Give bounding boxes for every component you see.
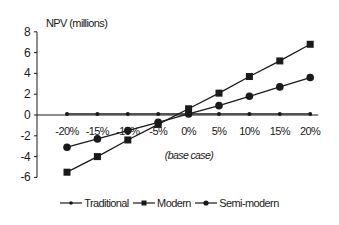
x-tick-label: -20%: [55, 125, 79, 137]
y-tick-label: 6: [24, 46, 31, 60]
x-tick-label: 0%: [181, 125, 197, 137]
x-axis: -20%-15%-10%-5%0%5%10%15%20%: [37, 115, 321, 137]
square-marker-icon: [64, 169, 71, 176]
series-semi-modern: [63, 74, 314, 151]
legend-item-modern: Modern: [133, 197, 191, 209]
y-tick-label: 0: [24, 108, 31, 122]
square-marker-icon: [307, 41, 314, 48]
diamond-marker-icon: [247, 112, 251, 116]
diamond-marker-icon: [278, 112, 282, 116]
square-marker-icon: [133, 199, 155, 207]
legend-item-semi-modern: Semi-modern: [195, 197, 278, 209]
legend-label: Traditional: [84, 197, 128, 209]
y-tick-label: 2: [24, 87, 31, 101]
diamond-marker-icon: [308, 112, 312, 116]
chart-title: NPV (millions): [46, 17, 107, 29]
circle-marker-icon: [124, 127, 132, 135]
y-tick-label: 8: [24, 25, 31, 39]
circle-marker-icon: [276, 83, 284, 91]
circle-marker-icon: [306, 74, 314, 82]
legend-item-traditional: Traditional: [60, 197, 128, 209]
diamond-marker-icon: [217, 112, 221, 116]
circle-marker-icon: [154, 118, 162, 126]
diamond-marker-icon: [126, 112, 130, 116]
y-axis: 86420-2-4-6: [21, 25, 37, 185]
diamond-marker-icon: [156, 112, 160, 116]
legend: Traditional Modern Semi-modern: [0, 197, 339, 209]
x-tick-label: 20%: [300, 125, 321, 137]
square-marker-icon: [216, 90, 223, 97]
circle-marker-icon: [195, 199, 217, 207]
legend-label: Semi-modern: [219, 197, 278, 209]
diamond-marker-icon: [65, 112, 69, 116]
circle-marker-icon: [94, 135, 102, 143]
y-tick-label: -6: [21, 170, 31, 184]
circle-marker-icon: [63, 143, 71, 151]
square-marker-icon: [246, 73, 253, 80]
x-tick-label: 5%: [212, 125, 228, 137]
npv-sensitivity-chart: NPV (millions) 86420-2-4-6 -20%-15%-10%-…: [0, 0, 339, 225]
y-tick-label: -2: [21, 129, 31, 143]
x-tick-label: 15%: [270, 125, 291, 137]
square-marker-icon: [276, 57, 283, 64]
diamond-marker-icon: [95, 112, 99, 116]
x-axis-annotation: (base case): [165, 149, 213, 161]
circle-marker-icon: [185, 110, 193, 118]
circle-marker-icon: [215, 102, 223, 110]
y-tick-label: -4: [21, 150, 31, 164]
square-marker-icon: [124, 136, 131, 143]
diamond-marker-icon: [60, 199, 82, 207]
y-tick-label: 4: [24, 66, 31, 80]
circle-marker-icon: [246, 92, 254, 100]
legend-label: Modern: [157, 197, 191, 209]
square-marker-icon: [94, 153, 101, 160]
x-tick-label: 10%: [239, 125, 260, 137]
